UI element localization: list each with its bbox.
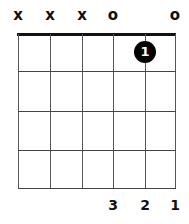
string-3-open-marker: o <box>105 6 121 24</box>
string-1-open-marker: o <box>167 6 183 24</box>
nut <box>17 33 176 36</box>
fret-2 <box>18 111 176 112</box>
fret-1 <box>18 71 176 72</box>
fingering-string-1: 1 <box>168 196 182 214</box>
string-4-mute-marker: x <box>74 6 90 24</box>
fingering-string-2: 2 <box>138 196 152 214</box>
finger-dot: 1 <box>134 41 156 63</box>
string-6-mute-marker: x <box>10 6 26 24</box>
fret-4 <box>18 188 176 189</box>
fret-3 <box>18 150 176 151</box>
string-5-mute-marker: x <box>42 6 58 24</box>
fingering-string-3: 3 <box>106 196 120 214</box>
